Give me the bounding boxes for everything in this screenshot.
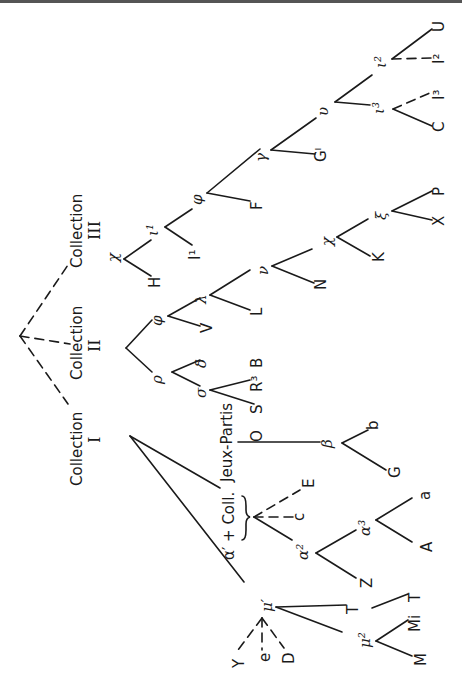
- svg-text:a: a: [416, 491, 434, 500]
- svg-text:P: P: [430, 187, 448, 196]
- svg-text:C: C: [430, 122, 448, 132]
- svg-text:I³: I³: [430, 90, 448, 100]
- svg-text:V: V: [198, 322, 216, 333]
- svg-text:ι²: ι²: [372, 56, 390, 68]
- root-edges: [20, 262, 70, 404]
- svg-text:A: A: [418, 541, 436, 552]
- svg-text:Jeux-Partis: Jeux-Partis: [218, 403, 236, 483]
- svg-text:D: D: [280, 652, 298, 664]
- svg-text:ν: ν: [254, 266, 272, 275]
- svg-text:δ: δ: [192, 359, 210, 368]
- svg-text:F: F: [248, 201, 266, 210]
- svg-text:α³: α³: [356, 520, 374, 536]
- svg-text:III: III: [85, 221, 104, 240]
- svg-text:λ: λ: [192, 294, 210, 305]
- svg-text:φ: φ: [148, 315, 166, 326]
- svg-text:Collection: Collection: [68, 306, 86, 380]
- svg-text:U: U: [430, 21, 448, 32]
- collection-II-label: Collection II: [68, 306, 104, 380]
- svg-text:I: I: [85, 437, 104, 443]
- svg-text:E: E: [300, 479, 318, 488]
- svg-text:K: K: [370, 251, 388, 262]
- svg-text:Y: Y: [230, 658, 248, 669]
- stemma-diagram: Collection III Collection II Collection …: [0, 0, 462, 682]
- svg-text:B: B: [248, 358, 266, 368]
- svg-text:μ′: μ′: [258, 598, 276, 612]
- svg-text:c: c: [290, 513, 308, 521]
- collection-I-tree: Jeux-Partis β b G α′ + Coll. c E α² Z α³…: [130, 403, 436, 669]
- svg-text:α²: α²: [294, 544, 312, 560]
- svg-text:β: β: [318, 439, 336, 449]
- svg-text:μ²: μ²: [356, 632, 374, 648]
- svg-text:S: S: [248, 404, 266, 414]
- svg-text:N: N: [312, 279, 330, 290]
- svg-text:Z: Z: [358, 578, 376, 588]
- svg-text:Mi: Mi: [406, 615, 424, 632]
- svg-text:II: II: [85, 339, 104, 352]
- svg-text:O: O: [248, 430, 266, 442]
- svg-text:φ: φ: [188, 194, 206, 205]
- collection-I-label: Collection I: [68, 412, 104, 486]
- svg-text:Gᴵ: Gᴵ: [312, 148, 330, 162]
- svg-text:γ: γ: [252, 153, 270, 162]
- svg-text:α′ + Coll.: α′ + Coll.: [220, 492, 238, 560]
- svg-text:Collection: Collection: [68, 412, 86, 486]
- svg-text:I²: I²: [430, 54, 448, 64]
- svg-text:Collection: Collection: [68, 194, 86, 268]
- svg-text:T: T: [406, 592, 424, 603]
- svg-text:e: e: [256, 653, 274, 662]
- svg-text:χ: χ: [318, 236, 336, 247]
- svg-text:υ: υ: [314, 107, 332, 116]
- svg-text:M: M: [412, 653, 430, 666]
- svg-text:G: G: [386, 466, 404, 478]
- svg-text:ι¹: ι¹: [144, 224, 162, 236]
- svg-text:ξ: ξ: [372, 211, 390, 220]
- svg-text:X: X: [430, 216, 448, 226]
- svg-text:χ: χ: [104, 252, 122, 263]
- collection-III-tree: χ H ι¹ I¹ φ F γ Gᴵ υ ι³ ι² C I³ I² U: [104, 21, 448, 288]
- svg-text:R³: R³: [248, 376, 266, 392]
- svg-text:σ: σ: [192, 387, 210, 398]
- collection-III-label: Collection III: [68, 194, 104, 268]
- svg-text:b: b: [364, 420, 382, 430]
- svg-text:ρ: ρ: [148, 375, 166, 385]
- collection-II-tree: φ V λ L ν N χ K ξ X P ρ δ B R³ σ S O: [126, 187, 448, 442]
- svg-text:T: T: [344, 604, 362, 615]
- svg-text:H: H: [146, 277, 164, 288]
- svg-text:L: L: [248, 307, 266, 316]
- svg-text:I¹: I¹: [186, 250, 204, 260]
- svg-text:ι³: ι³: [370, 102, 388, 114]
